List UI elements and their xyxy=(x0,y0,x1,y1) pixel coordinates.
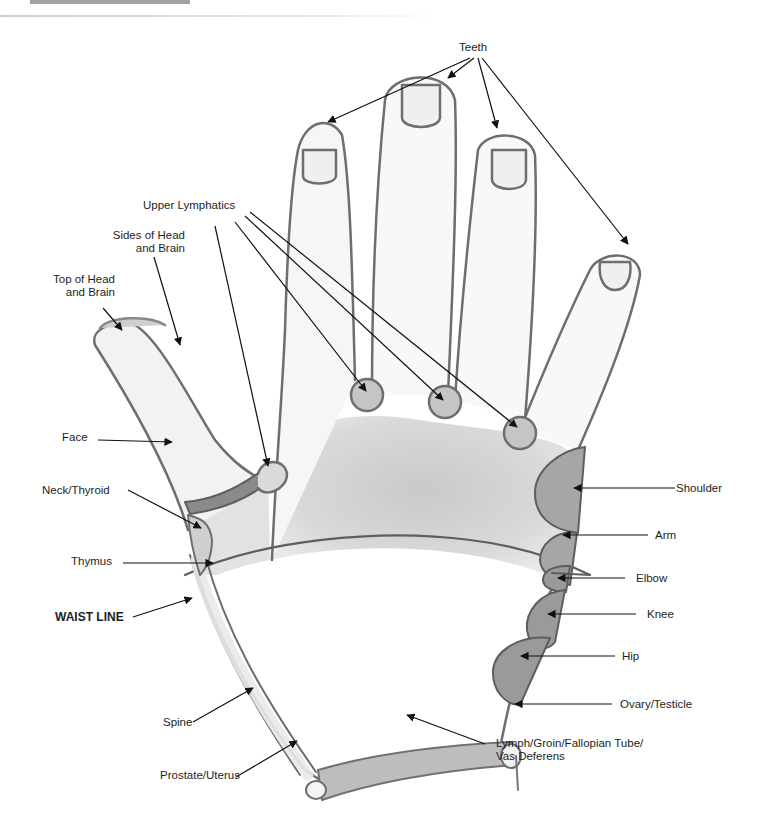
label-top-of-head: Top of Head and Brain xyxy=(35,273,115,299)
label-hip: Hip xyxy=(622,650,639,663)
label-waist-line: WAIST LINE xyxy=(55,611,124,624)
label-upper-lymphatics: Upper Lymphatics xyxy=(143,199,235,212)
prostate-uterus-region xyxy=(306,781,326,799)
label-neck-thyroid: Neck/Thyroid xyxy=(42,484,110,497)
upper-lymph-circle-3 xyxy=(504,417,536,449)
label-lymph-groin-line2: Vas Deferens xyxy=(496,750,643,763)
label-top-of-head-line2: and Brain xyxy=(35,286,115,299)
upper-lymph-circle-1 xyxy=(351,379,383,411)
label-face: Face xyxy=(62,431,88,444)
label-arm: Arm xyxy=(655,529,676,542)
label-lymph-groin: Lymph/Groin/Fallopian Tube/ Vas Deferens xyxy=(496,737,643,763)
label-knee: Knee xyxy=(647,608,674,621)
label-sides-of-head-line1: Sides of Head xyxy=(105,229,185,242)
label-sides-of-head: Sides of Head and Brain xyxy=(105,229,185,255)
label-ovary-testicle: Ovary/Testicle xyxy=(620,698,692,711)
label-lymph-groin-line1: Lymph/Groin/Fallopian Tube/ xyxy=(496,737,643,750)
label-teeth: Teeth xyxy=(459,41,487,54)
label-prostate-uterus: Prostate/Uterus xyxy=(160,769,240,782)
hand-outline xyxy=(94,77,640,800)
label-shoulder: Shoulder xyxy=(676,482,722,495)
label-top-of-head-line1: Top of Head xyxy=(35,273,115,286)
label-spine: Spine xyxy=(163,716,192,729)
label-sides-of-head-line2: and Brain xyxy=(105,242,185,255)
label-thymus: Thymus xyxy=(71,555,112,568)
label-elbow: Elbow xyxy=(636,572,667,585)
